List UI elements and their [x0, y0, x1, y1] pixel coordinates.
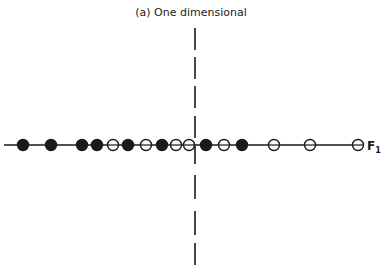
filled-point [201, 140, 212, 151]
filled-point [46, 140, 57, 151]
filled-point [237, 140, 248, 151]
filled-point [77, 140, 88, 151]
one-dimensional-feature-plot [0, 0, 382, 270]
filled-point [92, 140, 103, 151]
filled-point [157, 140, 168, 151]
filled-point [18, 140, 29, 151]
filled-point [123, 140, 134, 151]
axis-label-subscript: 1 [375, 146, 381, 155]
axis-label-f1: F1 [367, 139, 381, 155]
axis-label-main: F [367, 139, 375, 153]
